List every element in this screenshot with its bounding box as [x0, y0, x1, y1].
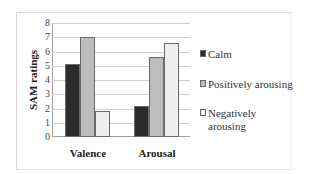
legend-label-calm: Calm — [208, 48, 232, 61]
legend-item-calm: Calm — [200, 48, 232, 61]
legend-swatch-negative — [200, 109, 206, 116]
legend-label-positive: Positively arousing — [208, 78, 293, 91]
legend-item-positively-arousing: Positively arousing — [200, 78, 293, 91]
gridline — [52, 23, 190, 24]
plot-area: 012345678 — [52, 23, 190, 137]
bar-arousal-calm — [134, 106, 149, 137]
y-tick-label: 6 — [42, 47, 50, 57]
bar-arousal-negatively-arousing — [164, 43, 179, 137]
legend-swatch-calm — [200, 50, 206, 57]
bar-arousal-positively-arousing — [149, 57, 164, 138]
y-tick-label: 5 — [42, 61, 50, 71]
category-label-arousal: Arousal — [127, 147, 187, 159]
y-tick-label: 3 — [42, 89, 50, 99]
y-tick-label: 2 — [42, 104, 50, 114]
gridline — [52, 37, 190, 38]
y-tick-label: 8 — [42, 18, 50, 28]
bar-valence-negatively-arousing — [95, 111, 110, 137]
legend-swatch-positive — [200, 80, 206, 87]
y-tick-label: 4 — [42, 75, 50, 85]
category-label-valence: Valence — [58, 147, 118, 159]
y-tick-label: 0 — [42, 132, 50, 142]
bar-valence-calm — [65, 64, 80, 137]
y-tick-label: 7 — [42, 32, 50, 42]
y-axis-label: SAM ratings — [27, 50, 39, 110]
legend-label-negative: Negativelyarousing — [208, 107, 256, 133]
legend-item-negatively-arousing: Negativelyarousing — [200, 107, 256, 133]
y-tick-label: 1 — [42, 118, 50, 128]
bar-valence-positively-arousing — [80, 37, 95, 137]
